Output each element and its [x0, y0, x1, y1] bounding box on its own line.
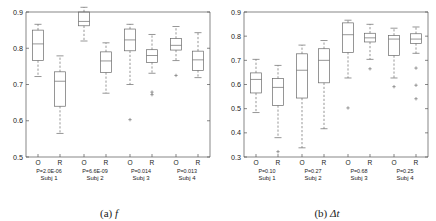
axis-frame: [26, 12, 210, 157]
condition-label: O: [35, 159, 40, 166]
group-pvalue-label: P=0.27: [304, 168, 321, 174]
box-iqr: [193, 51, 204, 70]
boxplot-subj1-O: [33, 24, 44, 76]
condition-label: R: [196, 159, 201, 166]
box-iqr: [411, 34, 422, 44]
y-tick-label: 0.5: [231, 104, 241, 113]
box-iqr: [171, 38, 182, 50]
y-tick-label: 0.6: [13, 116, 23, 125]
group-subject-label: Subj 2: [86, 175, 104, 181]
panel-b-caption: (b) Δt: [218, 207, 436, 219]
y-tick-label: 0.8: [231, 32, 241, 41]
group-subject-label: Subj 1: [258, 175, 276, 181]
condition-label: O: [345, 159, 350, 166]
group-pvalue-label: P=6.6E-09: [82, 168, 108, 174]
y-tick-label: 0.9: [13, 8, 23, 17]
box-iqr: [251, 73, 262, 93]
box-iqr: [319, 49, 330, 83]
y-tick-label: 0.4: [231, 128, 241, 137]
box-iqr: [343, 23, 354, 52]
panel-b-plot: 0.30.40.50.60.70.80.9ORORORORP=0.10Subj …: [218, 0, 436, 193]
group-subject-label: Subj 1: [40, 175, 58, 181]
boxplot-subj1-R: [55, 56, 66, 134]
y-tick-label: 0.9: [231, 8, 241, 17]
group-subject-label: Subj 4: [396, 175, 414, 181]
group-subject-label: Subj 3: [350, 175, 368, 181]
box-iqr: [55, 72, 66, 106]
panel-a-caption-symbol: f: [115, 207, 118, 219]
condition-label: O: [253, 159, 258, 166]
y-tick-label: 0.7: [231, 56, 241, 65]
panel-a: 0.50.60.70.80.9ORORORORP=2.0E-06Subj 1P=…: [0, 0, 218, 221]
panel-b: 0.30.40.50.60.70.80.9ORORORORP=0.10Subj …: [218, 0, 436, 221]
boxplot-subj2-R: [319, 41, 330, 129]
y-tick-label: 0.5: [13, 153, 23, 162]
y-tick-label: 0.7: [13, 80, 23, 89]
box-iqr: [297, 54, 308, 98]
boxplot-subj1-O: [251, 59, 262, 112]
group-subject-label: Subj 4: [178, 175, 196, 181]
condition-label: R: [414, 159, 419, 166]
group-pvalue-label: P=0.014: [131, 168, 151, 174]
condition-label: O: [391, 159, 396, 166]
group-pvalue-label: P=2.0E-06: [36, 168, 62, 174]
group-subject-label: Subj 2: [304, 175, 322, 181]
boxplot-subj2-O: [297, 45, 308, 148]
group-subject-label: Subj 3: [132, 175, 150, 181]
box-iqr: [147, 50, 158, 63]
group-pvalue-label: P=0.25: [396, 168, 413, 174]
boxplot-subj4-R: [411, 27, 422, 100]
boxplot-subj1-R: [273, 65, 284, 153]
boxplot-subj2-R: [101, 43, 112, 93]
boxplot-subj4-R: [193, 33, 204, 78]
group-pvalue-label: P=0.013: [177, 168, 197, 174]
panel-b-caption-symbol: Δt: [330, 207, 340, 219]
y-tick-label: 0.8: [13, 44, 23, 53]
condition-label: R: [322, 159, 327, 166]
condition-label: R: [104, 159, 109, 166]
boxplot-subj4-O: [389, 28, 400, 88]
y-tick-label: 0.6: [231, 80, 241, 89]
condition-label: R: [276, 159, 281, 166]
figure-boxplot-pair: 0.50.60.70.80.9ORORORORP=2.0E-06Subj 1P=…: [0, 0, 436, 221]
box-iqr: [33, 30, 44, 60]
box-iqr: [273, 78, 284, 105]
boxplot-subj3-R: [147, 34, 158, 96]
condition-label: O: [127, 159, 132, 166]
panel-a-caption: (a) f: [0, 207, 218, 219]
boxplot-subj3-R: [365, 24, 376, 70]
condition-label: O: [173, 159, 178, 166]
panel-b-caption-index: (b): [314, 207, 327, 219]
box-iqr: [101, 52, 112, 73]
y-tick-label: 0.3: [231, 153, 241, 162]
group-pvalue-label: P=0.68: [350, 168, 367, 174]
condition-label: O: [299, 159, 304, 166]
box-iqr: [79, 12, 90, 26]
group-pvalue-label: P=0.10: [258, 168, 275, 174]
condition-label: O: [81, 159, 86, 166]
box-iqr: [389, 35, 400, 55]
condition-label: R: [150, 159, 155, 166]
condition-label: R: [58, 159, 63, 166]
boxplot-subj4-O: [171, 27, 182, 78]
boxplot-subj3-O: [343, 20, 354, 109]
panel-a-caption-index: (a): [100, 207, 112, 219]
boxplot-subj2-O: [79, 7, 90, 41]
axis-frame: [244, 12, 428, 157]
panel-a-plot: 0.50.60.70.80.9ORORORORP=2.0E-06Subj 1P=…: [0, 0, 218, 193]
condition-label: R: [368, 159, 373, 166]
boxplot-subj3-O: [125, 24, 136, 121]
